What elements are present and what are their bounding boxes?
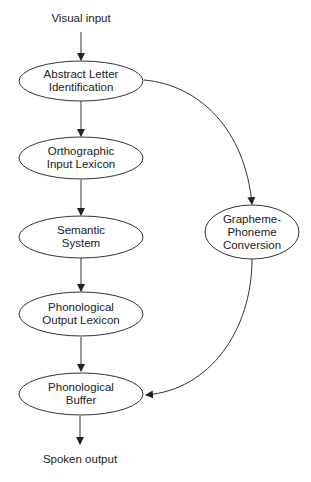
node-pol: Phonological Output Lexicon bbox=[19, 292, 143, 336]
node-gpc-line1: Grapheme- bbox=[223, 213, 281, 226]
node-ali-line2: Identification bbox=[49, 81, 114, 94]
node-oil: Orthographic Input Lexicon bbox=[19, 137, 143, 179]
node-sem: Semantic System bbox=[19, 216, 143, 258]
node-gpc-line3: Conversion bbox=[223, 239, 281, 252]
visual-input-label: Visual input bbox=[31, 12, 131, 25]
node-pol-line2: Output Lexicon bbox=[42, 314, 119, 327]
node-oil-line2: Input Lexicon bbox=[47, 158, 115, 171]
node-sem-line2: System bbox=[62, 237, 100, 250]
node-pb-line1: Phonological bbox=[48, 381, 114, 394]
node-gpc-line2: Phoneme bbox=[227, 226, 276, 239]
spoken-output-label: Spoken output bbox=[25, 453, 135, 466]
arrow-ali-to-gpc bbox=[144, 80, 252, 204]
arrow-gpc-to-pb bbox=[146, 259, 252, 395]
node-pb-line2: Buffer bbox=[66, 394, 96, 407]
node-ali: Abstract Letter Identification bbox=[19, 61, 143, 101]
node-sem-line1: Semantic bbox=[57, 224, 105, 237]
node-gpc: Grapheme- Phoneme Conversion bbox=[205, 205, 299, 259]
node-pol-line1: Phonological bbox=[48, 301, 114, 314]
node-oil-line1: Orthographic bbox=[48, 145, 114, 158]
node-pb: Phonological Buffer bbox=[19, 373, 143, 415]
node-ali-line1: Abstract Letter bbox=[44, 68, 119, 81]
clipped-caption bbox=[0, 477, 311, 482]
